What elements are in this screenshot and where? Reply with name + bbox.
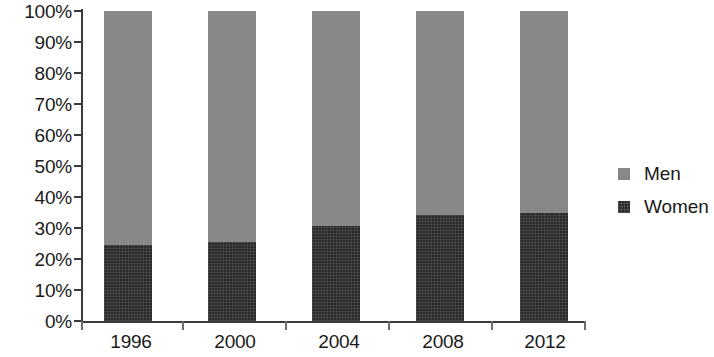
x-tick-mark	[182, 321, 184, 330]
x-tick-label: 2004	[287, 331, 391, 353]
bar-segment-women	[416, 215, 464, 321]
x-tick-mark	[584, 321, 586, 330]
x-tick-label: 2000	[183, 331, 287, 353]
x-axis-spine	[81, 321, 586, 323]
legend-swatch-women-icon	[618, 201, 630, 213]
bar-segment-women	[104, 245, 152, 321]
stacked-bar-chart: 100% 90% 80% 70% 60% 50% 40% 30% 20% 10%…	[0, 0, 714, 357]
legend-label-men: Men	[644, 163, 681, 185]
x-tick-label: 2008	[391, 331, 495, 353]
x-tick-label: 2012	[493, 331, 597, 353]
x-tick-mark	[81, 321, 83, 330]
legend-item-men: Men	[618, 163, 714, 196]
bar-segment-men	[520, 11, 568, 213]
x-tick-mark	[285, 321, 287, 330]
bar-segment-men	[312, 11, 360, 226]
legend-label-women: Women	[644, 196, 709, 218]
bar-segment-men	[416, 11, 464, 215]
x-tick-mark	[491, 321, 493, 330]
bar-segment-women	[208, 242, 256, 321]
x-tick-label: 1996	[79, 331, 183, 353]
bar-segment-women	[520, 213, 568, 321]
bar-segment-men	[208, 11, 256, 242]
legend-swatch-men-icon	[618, 168, 630, 180]
bar-segment-women	[312, 226, 360, 321]
x-tick-mark	[388, 321, 390, 330]
legend-item-women: Women	[618, 196, 714, 229]
chart-legend: Men Women	[618, 163, 714, 229]
plot-area	[0, 0, 714, 357]
bar-segment-men	[104, 11, 152, 245]
